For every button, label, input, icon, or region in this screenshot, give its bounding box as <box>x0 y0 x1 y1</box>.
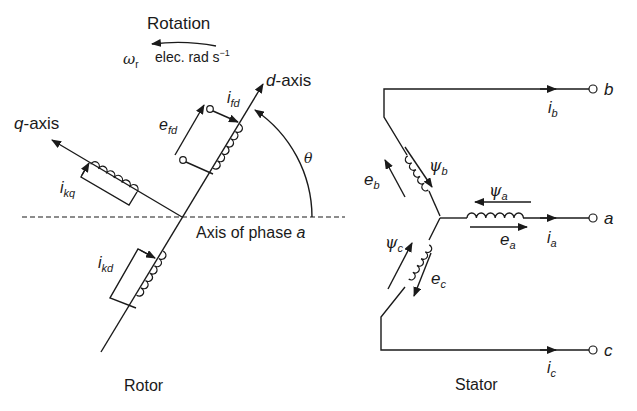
phase-c-current-label: ic <box>547 359 557 379</box>
d-axis-line <box>101 84 263 352</box>
stator-group: b ib eb ψb a ia ψa <box>364 80 613 393</box>
stator-title: Stator <box>455 376 498 393</box>
terminal-a-label: a <box>604 209 613 228</box>
q-axis-line <box>52 140 182 217</box>
field-current-arrow <box>213 111 238 122</box>
field-voltage-label: efd <box>159 116 178 136</box>
field-voltage-arrow <box>175 105 204 155</box>
phase-c-wire <box>381 287 590 350</box>
field-terminal-bottom <box>180 157 187 164</box>
rotation-arrow <box>152 42 216 46</box>
phase-b-emf-label: eb <box>364 170 380 191</box>
q-damper-loop <box>81 164 137 205</box>
q-damper-current-label: ikq <box>60 179 76 199</box>
q-axis-label: q-axis <box>14 114 59 133</box>
phase-b-lead <box>429 191 440 216</box>
terminal-b-label: b <box>604 80 613 99</box>
phase-b-current-label: ib <box>548 99 558 119</box>
phase-c-lead <box>429 218 440 240</box>
phase-a-axis-label: Axis of phase a <box>196 224 306 241</box>
theta-label: θ <box>304 150 313 166</box>
phase-a-coil <box>467 213 523 218</box>
field-terminal-top <box>207 106 214 113</box>
field-current-label: ifd <box>227 89 241 109</box>
rotation-label: Rotation <box>147 14 210 33</box>
phase-b-emf-arrow <box>385 160 405 197</box>
d-damper-current-arrow <box>140 250 155 258</box>
d-damper-current-label: ikd <box>98 254 114 274</box>
phase-b-coil <box>404 156 428 193</box>
terminal-a <box>589 214 597 222</box>
phase-c-coil <box>409 245 433 282</box>
d-axis-label: d-axis <box>266 71 311 90</box>
terminal-b <box>589 85 597 93</box>
phase-a-current-label: ia <box>547 229 557 249</box>
phase-a-emf-label: ea <box>500 230 516 251</box>
field-lead-bottom <box>186 162 213 174</box>
phase-b-flux-label: ψb <box>429 156 448 177</box>
rotor-title: Rotor <box>124 377 164 394</box>
q-damper-current-arrow <box>82 163 89 175</box>
field-winding-coil <box>213 124 244 171</box>
phase-c-flux-label: ψc <box>385 233 404 254</box>
phase-b-wire <box>384 89 592 155</box>
phase-c-emf-label: ec <box>431 269 446 290</box>
speed-unit-label: elec. rad s−1 <box>155 48 230 65</box>
terminal-c <box>589 346 597 354</box>
phase-a-flux-label: ψa <box>489 181 508 202</box>
omega-symbol: ωr <box>123 50 139 70</box>
terminal-c-label: c <box>604 341 613 360</box>
rotor-group: Rotation ωr elec. rad s−1 Axis of phase … <box>14 14 345 394</box>
synchronous-machine-diagram: Rotation ωr elec. rad s−1 Axis of phase … <box>0 0 637 411</box>
d-damper-coil <box>137 251 168 298</box>
